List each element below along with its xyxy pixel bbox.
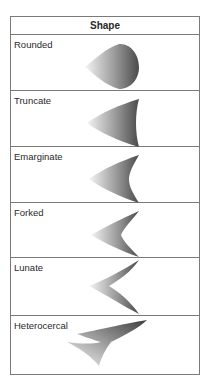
row-forked: Forked (11, 203, 199, 258)
rounded-fin-icon (11, 35, 199, 91)
row-rounded: Rounded (11, 35, 199, 91)
row-heterocercal: Heterocercal (11, 316, 199, 376)
lunate-fin-icon (11, 258, 199, 316)
table-header: Shape (11, 17, 199, 35)
fin-shape-table: Shape Rounded Truncate Emarginate Forked… (10, 16, 200, 375)
heterocercal-fin-icon (11, 316, 199, 376)
truncate-fin-icon (11, 91, 199, 147)
row-emarginate: Emarginate (11, 147, 199, 203)
emarginate-fin-icon (11, 147, 199, 203)
row-lunate: Lunate (11, 258, 199, 316)
forked-fin-icon (11, 203, 199, 258)
row-truncate: Truncate (11, 91, 199, 147)
